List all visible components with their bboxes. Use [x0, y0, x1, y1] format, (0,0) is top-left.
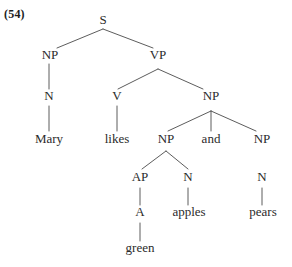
tree-edge-vp-to-v	[118, 69, 158, 89]
category-node-a: A	[135, 204, 145, 219]
category-node-v: V	[112, 88, 122, 103]
terminal-node-and: and	[202, 131, 221, 146]
category-node-vp: VP	[150, 47, 167, 62]
terminal-node-apples: apples	[172, 204, 205, 219]
category-node-ap: AP	[132, 169, 149, 184]
syntax-tree-canvas: SNPVPNVNPMarylikesNPandNPAPNNAapplespear…	[0, 0, 292, 267]
tree-edge-np3-to-n2	[166, 151, 188, 169]
terminal-node-likes: likes	[105, 131, 130, 146]
tree-edge-np2-to-np4	[211, 111, 256, 131]
tree-edge-np2-to-np3	[168, 111, 211, 131]
tree-edge-np3-to-ap	[142, 151, 166, 169]
category-node-np4: NP	[254, 131, 271, 146]
category-node-n1: N	[44, 88, 54, 103]
category-node-n2: N	[183, 169, 193, 184]
terminal-node-green: green	[126, 240, 155, 255]
category-node-np2: NP	[203, 88, 220, 103]
terminal-node-pears: pears	[249, 204, 276, 219]
category-node-s: S	[99, 12, 106, 27]
category-node-np3: NP	[158, 131, 175, 146]
tree-edge-s-to-vp	[103, 29, 153, 48]
syntax-tree-figure: (54) SNPVPNVNPMarylikesNPandNPAPNNAapple…	[0, 0, 292, 267]
tree-edge-s-to-np1	[57, 29, 103, 48]
category-node-n3: N	[257, 169, 267, 184]
tree-edge-vp-to-np2	[158, 69, 203, 89]
tree-node-layer: SNPVPNVNPMarylikesNPandNPAPNNAapplespear…	[35, 12, 277, 255]
category-node-np1: NP	[42, 47, 59, 62]
terminal-node-mary: Mary	[35, 131, 64, 146]
